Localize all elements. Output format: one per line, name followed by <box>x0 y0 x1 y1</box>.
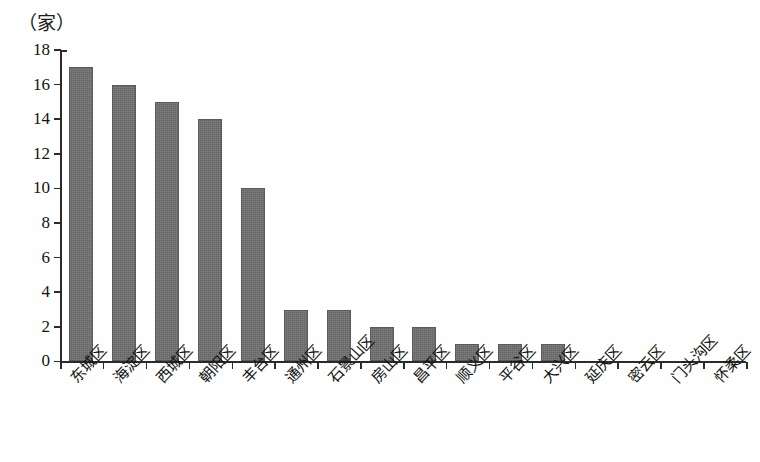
y-axis-tick <box>54 118 61 120</box>
x-axis-tick <box>617 362 619 369</box>
y-axis-tick-label: 18 <box>18 41 50 58</box>
x-axis-tick <box>317 362 319 369</box>
x-axis-tick <box>660 362 662 369</box>
x-axis-tick <box>189 362 191 369</box>
y-axis-tick-label: 16 <box>18 76 50 93</box>
x-axis-tick <box>532 362 534 369</box>
bar <box>241 188 265 361</box>
bar <box>198 119 222 361</box>
y-axis-tick <box>54 49 61 51</box>
y-axis-tick-label: 8 <box>18 214 50 231</box>
y-axis-tick <box>54 153 61 155</box>
y-axis-tick <box>54 84 61 86</box>
bar <box>112 85 136 362</box>
y-axis-tick-label: 14 <box>18 110 50 127</box>
y-axis-tick <box>54 188 61 190</box>
y-axis-tick-label: 2 <box>18 318 50 335</box>
y-axis-tick-label: 6 <box>18 249 50 266</box>
y-axis-top-cap <box>60 50 67 52</box>
x-axis-tick <box>274 362 276 369</box>
x-axis-tick <box>232 362 234 369</box>
x-axis-tick <box>575 362 577 369</box>
x-axis-tick <box>489 362 491 369</box>
y-axis-tick-label: 4 <box>18 283 50 300</box>
y-axis-tick <box>54 326 61 328</box>
x-axis-tick <box>446 362 448 369</box>
bar-chart: （家） 024681012141618 东城区海淀区西城区朝阳区丰台区通州区石景… <box>0 0 760 462</box>
y-axis-tick <box>54 222 61 224</box>
y-axis-line <box>60 50 62 362</box>
x-axis-tick <box>103 362 105 369</box>
x-axis-tick <box>360 362 362 369</box>
y-axis-tick-label: 12 <box>18 145 50 162</box>
y-axis-unit-label: （家） <box>18 8 75 35</box>
y-axis-tick-label: 0 <box>18 352 50 369</box>
x-axis-tick <box>403 362 405 369</box>
x-axis-tick <box>60 362 62 369</box>
x-axis-label: 门头沟区 <box>666 330 721 387</box>
y-axis-tick <box>54 257 61 259</box>
x-axis-tick <box>746 362 748 369</box>
x-axis-tick <box>146 362 148 369</box>
bar <box>69 67 93 361</box>
x-axis-tick <box>703 362 705 369</box>
y-axis-tick <box>54 291 61 293</box>
bar <box>155 102 179 362</box>
y-axis-tick-label: 10 <box>18 179 50 196</box>
